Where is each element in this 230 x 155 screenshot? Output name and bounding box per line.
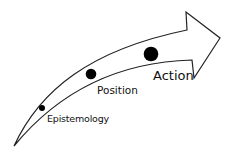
label-action: Action [153,68,194,83]
dot-position [86,69,97,80]
arrow-diagram [0,0,230,155]
label-epistemology: Epistemology [47,113,109,124]
dot-action [144,47,159,62]
dot-epistemology [39,105,45,111]
label-position: Position [97,84,138,96]
